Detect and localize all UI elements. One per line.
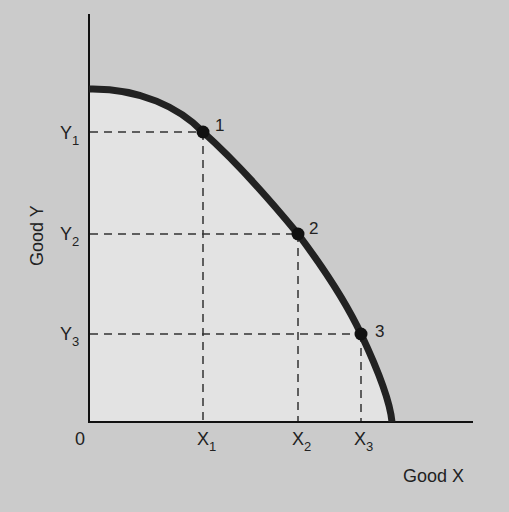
point-2: [292, 228, 305, 241]
point-3-label: 3: [375, 322, 384, 341]
point-1: [197, 126, 210, 139]
ppf-diagram: 1 2 3 Y1 Y2 Y3 0 X1 X2 X3 Good X Good Y: [0, 0, 509, 512]
y-axis-title: Good Y: [27, 205, 47, 266]
point-2-label: 2: [309, 219, 318, 238]
origin-label: 0: [75, 429, 85, 449]
point-3: [355, 328, 368, 341]
point-1-label: 1: [215, 116, 224, 135]
x-axis-title: Good X: [403, 466, 464, 486]
